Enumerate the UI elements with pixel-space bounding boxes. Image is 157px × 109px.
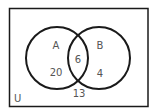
set-b-only-count: 4	[97, 68, 103, 79]
outside-count: 13	[73, 88, 86, 99]
set-a-label: A	[53, 40, 60, 51]
set-a-only-count: 20	[50, 67, 63, 78]
set-b-label: B	[97, 40, 104, 51]
venn-diagram: A B 6 20 4 13 U	[0, 0, 157, 109]
intersection-count: 6	[75, 54, 81, 65]
universe-label: U	[14, 93, 21, 104]
